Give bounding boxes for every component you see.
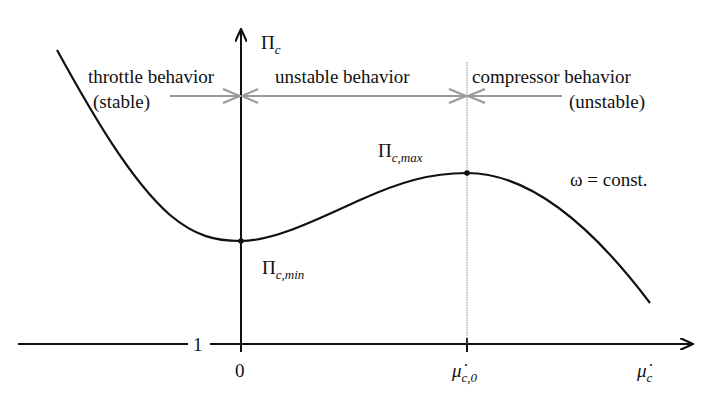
- x-axis-label-main: μ̇: [637, 360, 647, 381]
- max-label-sub: c,max: [392, 150, 423, 165]
- min-label-main: Π: [262, 257, 276, 278]
- x-axis-label-sub: c: [647, 370, 653, 385]
- x-axis: [18, 338, 692, 352]
- region-unstable-line1: unstable behavior: [275, 67, 410, 86]
- characteristic-curve: [57, 50, 650, 303]
- y-axis-label-sub: c: [275, 42, 281, 57]
- region-arrows: [170, 89, 562, 103]
- x-tick-mu-c0-sub: c,0: [462, 370, 478, 385]
- minimum-point: [238, 238, 244, 244]
- region-throttle-line1: throttle behavior: [88, 67, 214, 86]
- maximum-point: [464, 170, 470, 176]
- compressor-characteristic-diagram: Πc throttle behavior (stable) unstable b…: [0, 0, 719, 405]
- min-label-sub: c,min: [276, 267, 305, 282]
- max-point-label: Πc,max: [378, 141, 422, 160]
- region-compressor-line1: compressor behavior: [472, 67, 631, 86]
- y-axis-label: Πc: [261, 33, 281, 52]
- x-tick-mu-c0-label: μ̇c,0: [452, 361, 477, 380]
- curve-annotation: ω = const.: [570, 170, 648, 189]
- region-throttle-line2: (stable): [93, 92, 150, 111]
- region-compressor-line2: (unstable): [569, 92, 645, 111]
- x-tick-zero-label: 0: [235, 361, 245, 380]
- diagram-canvas: [0, 0, 719, 405]
- x-tick-mu-c0-main: μ̇: [452, 360, 462, 381]
- y-axis-label-main: Π: [261, 32, 275, 53]
- y-tick-one: 1: [193, 335, 203, 354]
- min-point-label: Πc,min: [262, 258, 304, 277]
- x-axis-label: μ̇c: [637, 361, 652, 380]
- max-label-main: Π: [378, 140, 392, 161]
